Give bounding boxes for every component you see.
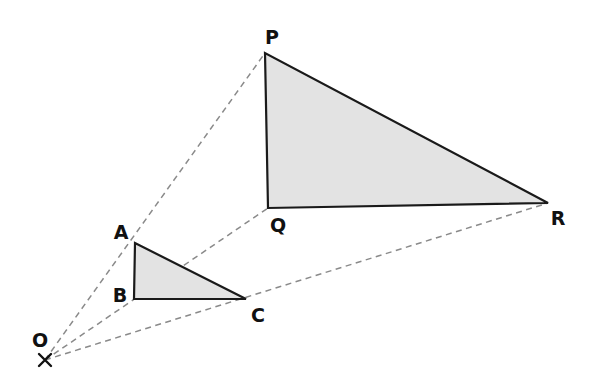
triangle-abc-group [134,243,246,299]
label-c: C [251,304,265,326]
triangle-pqr [265,53,548,208]
label-r: R [551,207,566,229]
label-b: B [113,284,127,306]
geometry-diagram: O A B C P Q R [0,0,601,385]
triangle-pqr-group [265,53,548,208]
centre-cross-icon [39,354,51,366]
label-a: A [114,221,129,243]
label-p: P [265,26,279,48]
ray-o-a-p [45,53,265,360]
label-o: O [32,329,48,351]
figure-canvas: O A B C P Q R [0,0,601,385]
label-q: Q [270,214,286,236]
centre-of-enlargement-group [39,354,51,366]
triangle-abc [134,243,246,299]
